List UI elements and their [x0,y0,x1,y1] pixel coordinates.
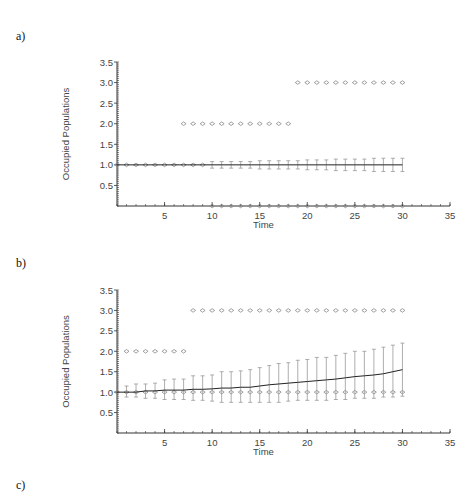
diamond-marker [390,309,395,313]
y-tick-label: 1.5 [100,139,113,150]
x-tick-label: 10 [207,210,218,221]
diamond-marker [124,349,129,353]
x-tick-label: 10 [207,437,218,448]
diamond-marker [191,122,196,126]
diamond-marker [210,122,215,126]
diamond-marker [191,309,196,313]
diamond-marker [238,309,243,313]
y-tick-label: 2.5 [100,325,113,336]
diamond-marker [305,309,310,313]
x-axis-title: Time [253,446,274,457]
diamond-marker [200,309,205,313]
y-tick-label: 1.0 [100,387,113,398]
x-tick-label: 20 [302,210,313,221]
diamond-marker [333,81,338,85]
plot-area: 0.51.01.52.02.53.03.55101520253035TimeOc… [60,57,455,231]
diamond-marker [238,122,243,126]
panel-label-c: c) [16,478,25,493]
x-tick-label: 5 [162,437,167,448]
diamond-marker [267,309,272,313]
diamond-marker [210,309,215,313]
diamond-marker [343,309,348,313]
diamond-marker [343,81,348,85]
diamond-marker [257,122,262,126]
y-axis-title: Occupied Populations [60,315,71,408]
chart-a: 0.51.01.52.02.53.03.55101520253035TimeOc… [0,0,464,230]
diamond-marker [314,81,319,85]
diamond-marker [181,349,186,353]
y-tick-label: 3.5 [100,285,113,296]
diamond-marker [181,122,186,126]
diamond-marker [219,309,224,313]
diamond-marker [295,81,300,85]
diamond-marker [324,309,329,313]
y-tick-label: 1.0 [100,159,113,170]
diamond-marker [381,81,386,85]
diamond-marker [390,81,395,85]
diamond-marker [134,349,139,353]
x-tick-label: 35 [445,210,456,221]
x-tick-label: 20 [302,437,313,448]
x-tick-label: 25 [350,437,361,448]
chart-b: 0.51.01.52.02.53.03.55101520253035TimeOc… [0,228,464,458]
diamond-marker [295,309,300,313]
diamond-marker [314,309,319,313]
y-tick-label: 2.0 [100,118,113,129]
y-axis-title: Occupied Populations [60,88,71,181]
diamond-marker [153,349,158,353]
diamond-marker [400,81,405,85]
diamond-marker [267,122,272,126]
y-tick-label: 0.5 [100,180,113,191]
y-tick-label: 2.5 [100,98,113,109]
diamond-marker [219,122,224,126]
y-tick-label: 2.0 [100,346,113,357]
diamond-marker [286,122,291,126]
diamond-marker [248,122,253,126]
diamond-marker [371,81,376,85]
y-tick-label: 3.0 [100,77,113,88]
diamond-marker [162,349,167,353]
y-tick-label: 0.5 [100,407,113,418]
diamond-marker [333,309,338,313]
diamond-marker [381,309,386,313]
diamond-marker [352,309,357,313]
diamond-marker [305,81,310,85]
plot-area: 0.51.01.52.02.53.03.55101520253035TimeOc… [60,285,455,458]
diamond-marker [324,81,329,85]
diamond-marker [200,122,205,126]
diamond-marker [172,349,177,353]
diamond-marker [362,309,367,313]
y-tick-label: 3.0 [100,305,113,316]
diamond-marker [371,309,376,313]
x-tick-label: 30 [397,210,408,221]
diamond-marker [286,309,291,313]
x-tick-label: 25 [350,210,361,221]
diamond-marker [143,349,148,353]
diamond-marker [276,309,281,313]
diamond-marker [400,309,405,313]
diamond-marker [229,309,234,313]
x-tick-label: 35 [445,437,456,448]
diamond-marker [352,81,357,85]
diamond-marker [362,81,367,85]
diamond-marker [248,309,253,313]
y-tick-label: 3.5 [100,57,113,68]
y-tick-label: 1.5 [100,366,113,377]
diamond-marker [257,309,262,313]
x-tick-label: 5 [162,210,167,221]
diamond-marker [276,122,281,126]
diamond-marker [229,122,234,126]
x-tick-label: 30 [397,437,408,448]
